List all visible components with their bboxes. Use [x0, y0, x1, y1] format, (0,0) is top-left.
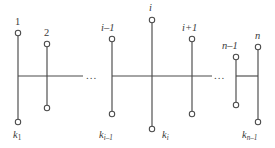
graph-canvas — [0, 0, 275, 148]
leaf-node-ki-1 — [109, 111, 114, 116]
vertex-node-2 — [44, 41, 49, 46]
label-ki: ki — [162, 130, 169, 141]
label-vertex-1: 1 — [15, 17, 20, 28]
label-k1-base: k — [13, 129, 18, 140]
leaf-node-ki — [149, 126, 154, 131]
label-ki-subscript: i — [167, 134, 169, 142]
leaf-node-2 — [44, 105, 49, 110]
label-ki-minus-1: ki–1 — [99, 130, 113, 141]
label-kn-minus-1-subscript: n–1 — [247, 134, 258, 142]
label-ki-minus-1-subscript: i–1 — [104, 134, 113, 142]
leaf-node-i+1 — [189, 111, 194, 116]
label-vertex-n-minus-1: n–1 — [222, 41, 238, 52]
label-vertex-i-plus-1: i+1 — [182, 23, 197, 34]
label-vertex-n: n — [255, 31, 260, 42]
vertex-node-i+1 — [189, 36, 194, 41]
label-ki-base: k — [162, 129, 167, 140]
vertex-node-n-1 — [233, 54, 238, 59]
label-vertex-i: i — [149, 3, 152, 14]
leaf-node-n-1 — [233, 102, 238, 107]
ellipsis-left: ... — [86, 70, 97, 81]
vertex-node-n — [255, 44, 260, 49]
caterpillar-graph-figure: ... ... 1 2 i–1 i i+1 n–1 n k1 ki–1 ki k… — [0, 0, 275, 148]
vertex-node-1 — [15, 30, 20, 35]
vertex-node-i — [149, 17, 154, 22]
label-kn-minus-1-base: k — [242, 129, 247, 140]
ellipsis-right: ... — [214, 70, 225, 81]
leaf-node-kn-1 — [255, 119, 260, 124]
label-vertex-2: 2 — [44, 28, 49, 39]
leaf-node-k1 — [15, 119, 20, 124]
label-k1: k1 — [13, 130, 21, 141]
label-k1-subscript: 1 — [18, 134, 22, 142]
vertex-node-i-1 — [109, 36, 114, 41]
label-kn-minus-1: kn–1 — [242, 130, 257, 141]
label-ki-minus-1-base: k — [99, 129, 104, 140]
label-vertex-i-minus-1: i–1 — [101, 23, 114, 34]
